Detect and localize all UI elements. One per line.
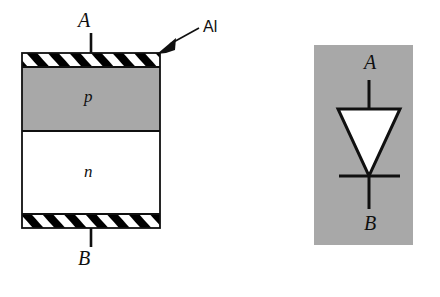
bottom-aluminium-contact: [22, 214, 160, 228]
al-callout-arrowhead: [157, 38, 176, 54]
symbol-anode-label: A: [364, 52, 376, 72]
cross-section-terminal-b-label: B: [78, 248, 90, 268]
figure-canvas: A B p n Al A B: [0, 0, 440, 297]
p-region-label: p: [84, 88, 93, 105]
figure-svg: [0, 0, 440, 297]
n-region-label: n: [84, 163, 93, 180]
symbol-cathode-label: B: [364, 213, 376, 233]
cross-section-terminal-a-label: A: [78, 10, 90, 30]
top-aluminium-contact: [22, 53, 160, 67]
aluminium-callout-label: Al: [203, 19, 217, 35]
